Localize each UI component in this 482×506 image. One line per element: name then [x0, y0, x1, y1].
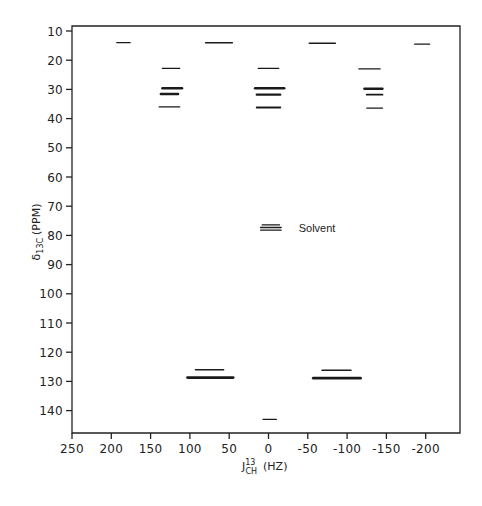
y-tick-label: 140 — [39, 404, 63, 418]
y-tick-label: 20 — [47, 54, 63, 68]
x-axis-title-sup: 13 — [245, 458, 255, 467]
x-tick-label: -100 — [333, 442, 361, 456]
y-tick-label: 10 — [47, 25, 63, 39]
y-tick-label: 120 — [39, 346, 63, 360]
x-tick-label: 50 — [221, 442, 237, 456]
y-tick-label: 80 — [47, 229, 63, 243]
x-axis-title-sub: CH — [245, 467, 257, 476]
x-tick-label: 150 — [139, 442, 163, 456]
x-tick-label: -50 — [298, 442, 319, 456]
svg-text:J13CH(HZ): J13CH(HZ) — [241, 458, 287, 476]
y-axis-title: δ13C(PPM) — [30, 204, 45, 261]
x-axis: 250200150100500-50-100-150-200 — [60, 433, 440, 456]
y-tick-label: 110 — [39, 317, 63, 331]
y-tick-label: 70 — [47, 200, 63, 214]
y-tick-label: 100 — [39, 287, 63, 301]
y-axis-title-unit: (PPM) — [30, 204, 43, 235]
y-tick-label: 90 — [47, 258, 63, 272]
y-axis-title-sub: 13C — [36, 238, 45, 254]
y-tick-label: 50 — [47, 141, 63, 155]
x-tick-label: -200 — [411, 442, 439, 456]
y-tick-label: 60 — [47, 171, 63, 185]
x-axis-title-unit: (HZ) — [263, 460, 287, 473]
x-axis-title: J13CH(HZ) — [241, 458, 287, 476]
x-tick-label: 0 — [265, 442, 273, 456]
x-tick-label: 250 — [60, 442, 84, 456]
x-tick-label: -150 — [372, 442, 400, 456]
y-tick-label: 130 — [39, 375, 63, 389]
solvent-annotation: Solvent — [299, 222, 336, 234]
nmr-contour-chart: 102030405060708090100110120130140 250200… — [0, 0, 482, 506]
svg-text:δ13C(PPM): δ13C(PPM) — [30, 204, 45, 261]
y-tick-label: 30 — [47, 83, 63, 97]
y-tick-label: 40 — [47, 112, 63, 126]
y-axis: 102030405060708090100110120130140 — [39, 25, 72, 419]
x-tick-label: 100 — [178, 442, 202, 456]
x-tick-label: 200 — [99, 442, 123, 456]
contour-peaks — [117, 43, 430, 420]
